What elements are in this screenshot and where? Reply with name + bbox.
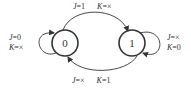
self-loop-0-label-k: K=× (8, 43, 23, 52)
transition-1-to-0-arrow (68, 56, 137, 70)
jk-state-diagram: 0 1 J=1 K=× J=× K=1 J=0 K=× J=× K=0 (0, 0, 191, 89)
transition-1-to-0-label: J=× K=1 (72, 76, 110, 85)
state-1-label: 1 (129, 37, 135, 49)
self-loop-0-label-j: J=0 (9, 33, 21, 42)
self-loop-1-label-j: J=× (167, 33, 180, 42)
transition-0-to-1-label: J=1 K=× (73, 2, 111, 11)
self-loop-1-label-k: K=0 (166, 43, 181, 52)
state-0-label: 0 (62, 37, 68, 49)
transition-0-to-1-arrow (63, 12, 128, 31)
